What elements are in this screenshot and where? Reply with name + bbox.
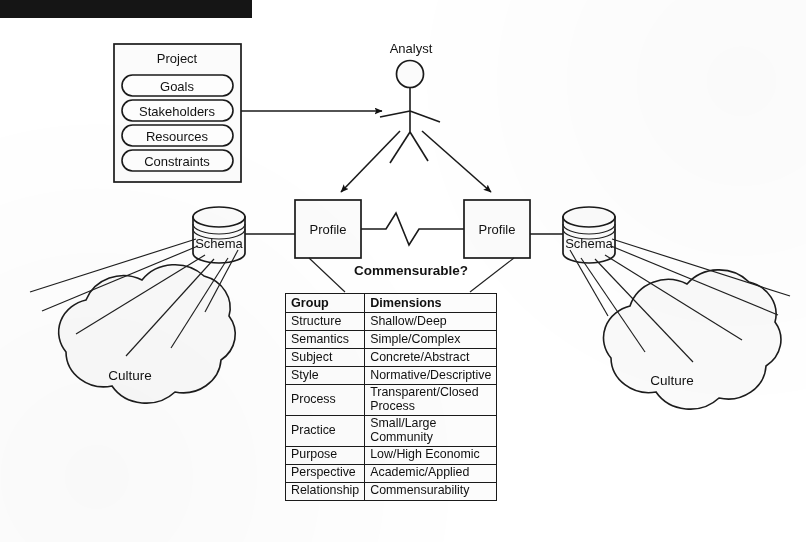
- stick-figure-icon: [380, 61, 440, 164]
- cell-dimensions: Transparent/Closed Process: [365, 385, 497, 416]
- cell-dimensions: Concrete/Abstract: [365, 349, 497, 367]
- cell-group: Perspective: [286, 464, 365, 482]
- project-item-goals: [122, 75, 233, 96]
- cell-dimensions: Academic/Applied: [365, 464, 497, 482]
- cloud-icon-left: [59, 265, 236, 403]
- cell-dimensions: Commensurability: [365, 482, 497, 500]
- cell-group: Purpose: [286, 446, 365, 464]
- zigzag-break-connector: [361, 213, 464, 245]
- cell-dimensions: Low/High Economic: [365, 446, 497, 464]
- table-body: Structure Shallow/Deep Semantics Simple/…: [286, 313, 497, 501]
- table-header-dimensions: Dimensions: [365, 294, 497, 313]
- arrow-analyst-to-right-profile: [422, 131, 491, 192]
- project-item-resources: [122, 125, 233, 146]
- link-right-profile-table: [470, 258, 514, 292]
- cell-group: Style: [286, 367, 365, 385]
- project-box: [114, 44, 241, 182]
- table-row: Subject Concrete/Abstract: [286, 349, 497, 367]
- link-left-profile-table: [309, 258, 345, 292]
- profile-box-left: [295, 200, 361, 258]
- cell-group: Practice: [286, 415, 365, 446]
- cell-dimensions: Simple/Complex: [365, 331, 497, 349]
- profile-box-right: [464, 200, 530, 258]
- cell-dimensions: Small/Large Community: [365, 415, 497, 446]
- table-row: Perspective Academic/Applied: [286, 464, 497, 482]
- database-cylinder-icon-left: [193, 207, 245, 263]
- cell-group: Structure: [286, 313, 365, 331]
- cell-group: Subject: [286, 349, 365, 367]
- dimensions-table: Group Dimensions Structure Shallow/Deep …: [285, 293, 497, 501]
- table-row: Style Normative/Descriptive: [286, 367, 497, 385]
- table-header-row: Group Dimensions: [286, 294, 497, 313]
- table-row: Practice Small/Large Community: [286, 415, 497, 446]
- project-item-stakeholders: [122, 100, 233, 121]
- cloud-icon-right: [603, 270, 780, 409]
- cell-dimensions: Normative/Descriptive: [365, 367, 497, 385]
- project-item-constraints: [122, 150, 233, 171]
- table-row: Semantics Simple/Complex: [286, 331, 497, 349]
- table-row: Process Transparent/Closed Process: [286, 385, 497, 416]
- cell-dimensions: Shallow/Deep: [365, 313, 497, 331]
- cell-group: Semantics: [286, 331, 365, 349]
- cell-group: Process: [286, 385, 365, 416]
- table-row: Purpose Low/High Economic: [286, 446, 497, 464]
- table-header-group: Group: [286, 294, 365, 313]
- table-row: Relationship Commensurability: [286, 482, 497, 500]
- database-cylinder-icon-right: [563, 207, 615, 263]
- diagram-canvas: Project Goals Stakeholders Resources Con…: [0, 0, 806, 542]
- cell-group: Relationship: [286, 482, 365, 500]
- table-row: Structure Shallow/Deep: [286, 313, 497, 331]
